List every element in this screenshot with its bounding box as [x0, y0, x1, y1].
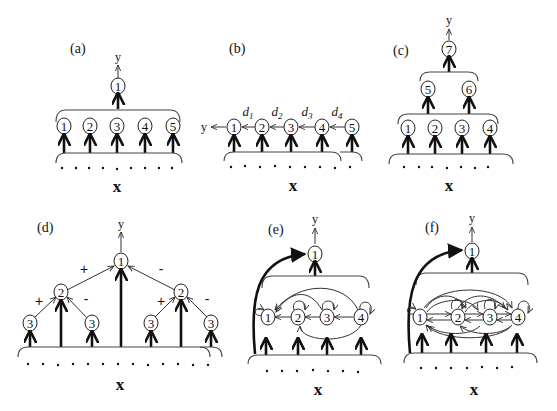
input-arrows	[266, 340, 361, 355]
input-arrows	[64, 136, 173, 153]
svg-text:1: 1	[417, 310, 424, 325]
input-x-label: x	[314, 380, 323, 399]
output-y-label: y	[118, 217, 124, 231]
output-y-label: y	[201, 120, 207, 134]
input-dots	[230, 165, 351, 169]
input-brace	[404, 353, 537, 363]
panel-label: (b)	[229, 41, 246, 57]
panel-a: (a) y 1 1 2 3 4 5 x	[56, 41, 182, 196]
svg-text:-: -	[159, 261, 164, 277]
panel-label: (d)	[37, 220, 54, 236]
input-brace	[18, 347, 210, 357]
svg-text:2: 2	[455, 310, 462, 325]
svg-text:1: 1	[118, 254, 125, 269]
svg-text:5: 5	[425, 82, 432, 97]
input-dots	[420, 366, 513, 369]
bottom-nodes: 1 2 3 4	[401, 120, 497, 136]
svg-text:2: 2	[432, 121, 439, 136]
output-y-label: y	[469, 211, 475, 225]
input-arrows	[30, 271, 211, 347]
svg-text:3: 3	[148, 316, 155, 331]
input-arrows	[234, 137, 352, 152]
input-brace	[389, 154, 513, 164]
delay-labels: d1 d2 d3 d4	[243, 104, 344, 121]
svg-text:2: 2	[87, 119, 94, 134]
input-dots	[27, 363, 209, 366]
svg-text:1: 1	[231, 120, 238, 135]
output-node: 1	[465, 243, 479, 259]
panel-label: (c)	[393, 43, 409, 59]
svg-text:4: 4	[487, 121, 494, 136]
upper-brace	[416, 273, 528, 285]
svg-text:2: 2	[259, 120, 266, 135]
output-node: 7	[442, 41, 456, 57]
panel-label: (a)	[70, 41, 86, 57]
output-node: 1	[111, 78, 125, 94]
svg-text:d2: d2	[272, 104, 284, 121]
input-dots	[266, 369, 359, 373]
svg-text:3: 3	[288, 120, 295, 135]
skip-connection-arrow	[408, 250, 462, 353]
input-brace	[248, 355, 381, 364]
svg-text:3: 3	[324, 310, 331, 325]
svg-text:d3: d3	[302, 104, 314, 121]
middle-nodes: 5 6	[421, 81, 476, 97]
svg-text:3: 3	[89, 316, 96, 331]
panel-f: (f) y 1 1	[404, 211, 537, 399]
svg-text:1: 1	[405, 121, 412, 136]
svg-text:2: 2	[178, 285, 185, 300]
panel-e: (e) y 1 1 2 3 4	[248, 212, 381, 399]
svg-text:+: +	[157, 293, 165, 309]
svg-text:d1: d1	[243, 104, 254, 121]
svg-text:5: 5	[349, 120, 356, 135]
svg-text:3: 3	[487, 310, 494, 325]
svg-text:7: 7	[446, 42, 453, 57]
input-x-label: x	[445, 176, 454, 195]
svg-text:2: 2	[295, 310, 302, 325]
input-x-label: x	[116, 375, 125, 394]
svg-text:1: 1	[61, 119, 68, 134]
panel-c: (c) y 7 5 6 1 2 3 4	[389, 13, 513, 195]
input-x-label: x	[113, 177, 122, 196]
svg-text:4: 4	[515, 310, 522, 325]
svg-text:+: +	[80, 261, 88, 277]
input-dots	[403, 166, 489, 169]
input-brace	[56, 153, 182, 163]
svg-text:-: -	[84, 291, 89, 307]
svg-text:3: 3	[27, 316, 34, 331]
input-arrows	[408, 138, 490, 154]
output-y-label: y	[312, 212, 318, 226]
skip-connection-arrow	[253, 254, 305, 354]
root-node: 1	[114, 253, 128, 269]
svg-text:+: +	[35, 293, 43, 309]
input-arrows	[422, 336, 517, 353]
panel-label: (f)	[425, 220, 439, 236]
upper-brace	[262, 276, 369, 288]
figure-diagram: (a) y 1 1 2 3 4 5 x	[0, 0, 557, 411]
svg-text:-: -	[205, 291, 210, 307]
svg-text:6: 6	[466, 82, 473, 97]
svg-text:4: 4	[358, 310, 365, 325]
upper-brace	[420, 72, 478, 81]
svg-text:5: 5	[170, 119, 177, 134]
svg-text:4: 4	[319, 120, 326, 135]
svg-text:2: 2	[58, 285, 65, 300]
recurrent-nodes: 1 2 3 4	[413, 309, 525, 325]
svg-text:1: 1	[469, 244, 476, 259]
output-y-label: y	[446, 13, 452, 27]
panel-d: (d) y 1 2 2 3 3 3 3 + - + -	[18, 217, 222, 394]
panel-b: (b) y 1 2 3 4 5 d1 d2 d3 d4	[201, 41, 362, 195]
input-x-label: x	[470, 380, 479, 399]
svg-text:3: 3	[208, 316, 215, 331]
svg-text:3: 3	[114, 119, 121, 134]
svg-text:1: 1	[312, 247, 319, 262]
svg-text:d4: d4	[332, 104, 344, 121]
hidden-nodes: 1 2 3 4 5	[57, 118, 180, 134]
output-node: 1	[308, 246, 322, 262]
svg-text:3: 3	[459, 121, 466, 136]
svg-text:1: 1	[115, 79, 122, 94]
input-brace	[224, 152, 341, 161]
panel-label: (e)	[268, 222, 284, 238]
svg-text:1: 1	[265, 310, 272, 325]
input-x-label: x	[289, 176, 298, 195]
